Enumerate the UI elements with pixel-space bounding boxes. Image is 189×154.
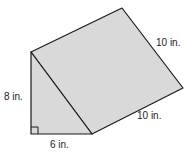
slant-label: 10 in.: [156, 37, 180, 48]
length-label: 10 in.: [137, 110, 161, 121]
triangular-prism-diagram: 8 in. 6 in. 10 in. 10 in.: [0, 0, 189, 154]
height-label: 8 in.: [4, 91, 23, 102]
base-label: 6 in.: [50, 139, 69, 150]
